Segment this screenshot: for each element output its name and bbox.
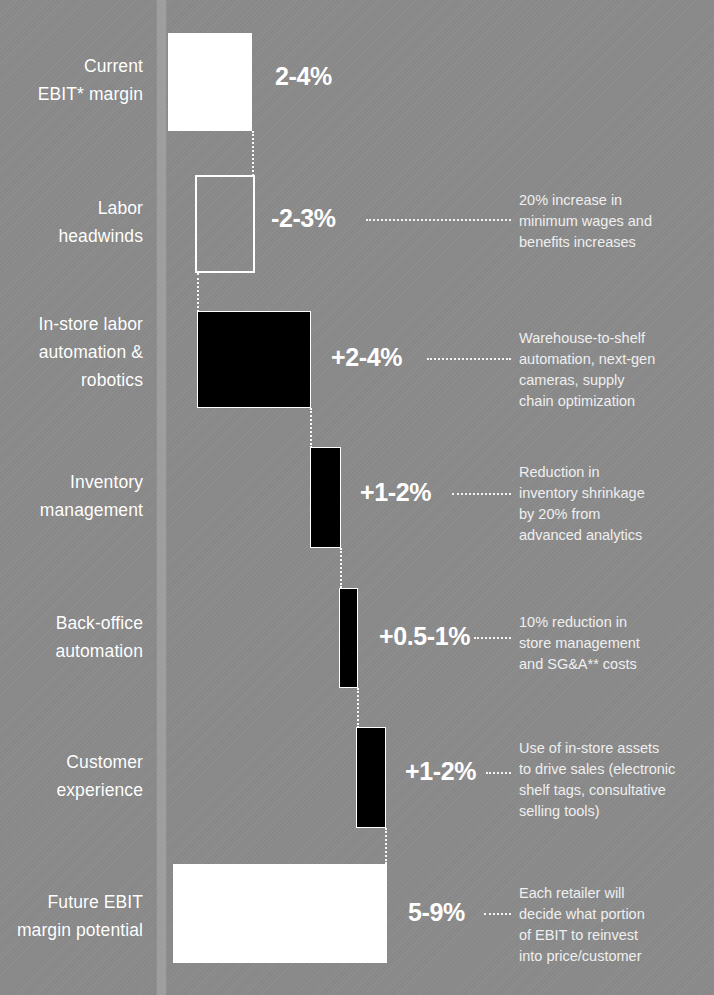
- category-label-labor-headwinds: Labor headwinds: [0, 194, 143, 250]
- value-label-future-ebit-margin-potential: 5-9%: [408, 898, 465, 927]
- bar-future-ebit-margin-potential: [173, 864, 387, 963]
- value-label-customer-experience: +1-2%: [405, 757, 476, 786]
- category-label-back-office-automation: Back-office automation: [0, 609, 143, 665]
- leader-line-labor-headwinds: [366, 219, 511, 221]
- annotation-customer-experience: Use of in-store assets to drive sales (e…: [519, 738, 709, 822]
- annotation-future-ebit-margin-potential: Each retailer will decide what portion o…: [519, 883, 709, 967]
- category-label-future-ebit-margin-potential: Future EBIT margin potential: [0, 888, 143, 944]
- connector-5: [357, 688, 359, 728]
- bar-in-store-labor-automation: [197, 311, 311, 408]
- waterfall-chart: Current EBIT* margin 2-4% Labor headwind…: [0, 0, 714, 995]
- annotation-labor-headwinds: 20% increase in minimum wages and benefi…: [519, 190, 709, 253]
- annotation-back-office-automation: 10% reduction in store management and SG…: [519, 612, 709, 675]
- value-label-back-office-automation: +0.5-1%: [379, 622, 470, 651]
- value-label-labor-headwinds: -2-3%: [271, 204, 336, 233]
- bar-customer-experience: [356, 727, 386, 828]
- leader-line-back-office-automation: [474, 637, 511, 639]
- value-label-inventory-management: +1-2%: [360, 478, 431, 507]
- connector-6: [385, 828, 387, 864]
- value-label-in-store-labor-automation: +2-4%: [331, 343, 402, 372]
- leader-line-customer-experience: [486, 772, 511, 774]
- value-label-current-ebit-margin: 2-4%: [275, 62, 332, 91]
- connector-2: [197, 273, 199, 312]
- leader-line-future-ebit-margin-potential: [484, 913, 511, 915]
- category-label-current-ebit-margin: Current EBIT* margin: [0, 52, 143, 108]
- connector-3: [310, 408, 312, 448]
- bar-back-office-automation: [339, 588, 358, 688]
- category-label-inventory-management: Inventory management: [0, 468, 143, 524]
- category-label-customer-experience: Customer experience: [0, 748, 143, 804]
- annotation-in-store-labor-automation: Warehouse-to-shelf automation, next-gen …: [519, 328, 709, 412]
- bar-inventory-management: [310, 447, 341, 548]
- annotation-inventory-management: Reduction in inventory shrinkage by 20% …: [519, 462, 709, 546]
- bar-current-ebit-margin: [168, 33, 252, 131]
- leader-line-in-store-labor-automation: [427, 358, 511, 360]
- bar-labor-headwinds: [195, 175, 255, 273]
- vertical-axis-spine: [157, 0, 166, 995]
- leader-line-inventory-management: [452, 493, 511, 495]
- category-label-in-store-labor-automation: In-store labor automation & robotics: [0, 310, 143, 394]
- connector-1: [252, 131, 254, 176]
- connector-4: [340, 548, 342, 588]
